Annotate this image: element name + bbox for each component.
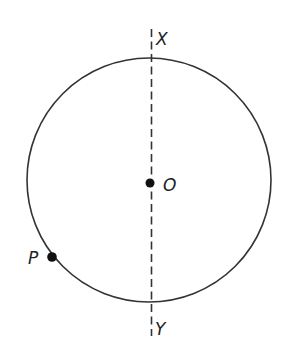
label-y: Y <box>155 319 167 339</box>
label-o: O <box>163 175 176 195</box>
circle-diagram: X Y O P <box>0 0 287 350</box>
label-x: X <box>155 29 168 49</box>
point-p <box>47 252 57 262</box>
center-point-o <box>146 179 155 188</box>
label-p: P <box>28 248 39 268</box>
